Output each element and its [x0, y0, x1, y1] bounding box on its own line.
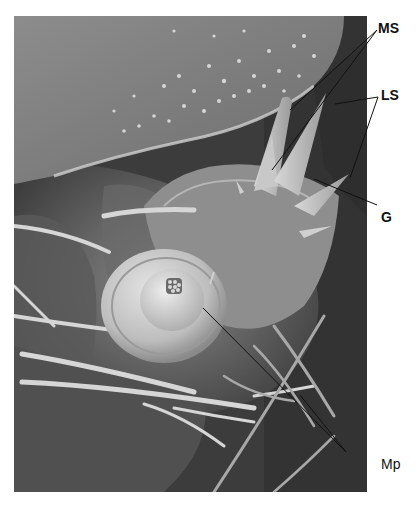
figure: MS LS G Mp — [0, 0, 420, 508]
label-mp: Mp — [381, 457, 400, 471]
label-ls: LS — [381, 88, 399, 102]
label-ms: MS — [378, 21, 399, 35]
label-g: G — [381, 210, 392, 224]
sem-micrograph — [14, 16, 367, 492]
